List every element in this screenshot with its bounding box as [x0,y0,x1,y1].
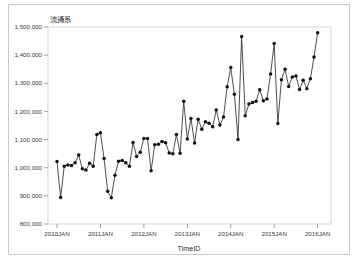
data-point [175,133,179,137]
x-tick-label: 2011JAN [88,230,113,237]
data-point [167,151,171,155]
data-point [135,155,139,159]
data-point [186,137,190,141]
data-point [88,161,92,165]
data-point [113,174,117,178]
data-point [66,163,70,167]
x-tick-label: 2016JAN [305,230,330,237]
data-point [84,168,88,172]
data-point [110,196,114,200]
data-point [95,133,99,137]
data-point [55,160,59,164]
data-point [160,140,164,144]
data-series [55,31,319,200]
data-point [272,42,276,46]
data-point [62,165,66,169]
data-point [280,78,284,82]
x-tick-label: 2013JAN [175,230,200,237]
y-tick-label: 1,100,000 [14,136,42,143]
data-point [287,85,291,89]
data-point [146,137,150,141]
data-point [251,101,255,105]
y-axis-ticks: 800,000900,0001,000,0001,100,0001,200,00… [14,23,48,227]
data-point [247,102,251,106]
data-point [240,35,244,39]
y-axis-title: 流通系 [50,15,71,24]
y-tick-label: 1,500,000 [14,23,42,30]
x-axis-title: TimeID [178,244,201,253]
y-tick-label: 1,200,000 [14,108,42,115]
data-point [269,72,273,76]
series-line [57,33,318,198]
data-point [211,125,215,129]
data-point [291,75,295,79]
data-point [218,123,222,127]
data-point [229,66,233,70]
data-point [265,97,269,101]
y-tick-label: 1,000,000 [14,164,42,171]
data-point [312,55,316,59]
data-point [298,88,302,92]
data-point [102,157,106,161]
data-point [142,137,146,141]
data-point [189,117,193,121]
data-point [99,131,103,135]
data-point [207,122,211,126]
y-tick-label: 800,000 [20,220,43,227]
x-tick-label: 2012JAN [131,230,156,237]
data-point [73,161,77,165]
data-point [222,115,226,119]
data-point [309,77,313,81]
data-point [204,120,208,124]
data-point [294,74,298,78]
data-point [117,159,121,163]
y-tick-label: 1,300,000 [14,79,42,86]
data-point [243,114,247,118]
data-point [171,152,175,156]
data-point [196,118,200,122]
y-tick-label: 900,000 [20,192,43,199]
data-point [139,150,143,154]
line-chart: 800,000900,0001,000,0001,100,0001,200,00… [9,5,351,256]
data-point [131,141,135,145]
data-point [305,87,309,91]
data-point [193,141,197,145]
data-point [258,88,262,92]
data-point [301,78,305,82]
data-point [157,143,161,147]
data-point [153,143,157,147]
data-point [128,165,131,169]
data-point [182,100,186,104]
x-tick-label: 2015JAN [261,230,286,237]
data-point [283,67,287,71]
data-point [77,153,81,157]
data-point [316,31,320,34]
x-tick-label: 2010JAN [44,230,69,237]
data-point [215,108,219,112]
y-tick-label: 1,400,000 [14,51,42,58]
data-point [70,164,74,168]
x-axis-ticks: 2010JAN2011JAN2012JAN2013JAN2014JAN2015J… [44,224,330,237]
data-point [120,159,124,163]
data-point [233,93,237,97]
data-point [81,167,85,171]
x-tick-label: 2014JAN [218,230,243,237]
data-point [149,169,153,173]
data-point [262,99,266,103]
data-point [124,161,128,165]
data-point [254,100,258,104]
data-point [59,196,63,200]
data-point [236,138,240,142]
data-point [178,152,182,156]
data-point [91,165,95,169]
data-point [225,85,229,89]
data-point [106,190,110,194]
chart-frame: 800,000900,0001,000,0001,100,0001,200,00… [8,4,350,255]
data-point [200,127,204,131]
data-point [276,122,280,126]
data-point [164,141,168,145]
